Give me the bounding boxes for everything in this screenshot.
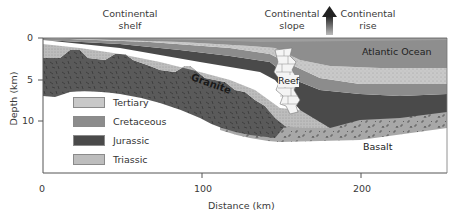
- label-line: Continental: [80, 8, 180, 20]
- legend-swatch: [73, 97, 105, 108]
- x-tick-200: 200: [353, 183, 371, 194]
- legend-label: Tertiary: [113, 97, 149, 108]
- legend-item-jurassic: Jurassic: [73, 134, 149, 146]
- y-tick-0: 0: [27, 32, 33, 43]
- legend-item-triassic: Triassic: [73, 153, 148, 165]
- legend-swatch: [73, 116, 105, 127]
- reef-label: Reef: [278, 75, 299, 87]
- label-line: shelf: [80, 20, 180, 32]
- legend-swatch: [73, 154, 105, 165]
- label-line: Continental: [338, 8, 398, 20]
- y-axis-title: Depth (km): [8, 71, 19, 125]
- basalt-label: Basalt: [363, 141, 392, 153]
- continental-shelf-label: Continental shelf: [80, 8, 180, 32]
- legend-label: Cretaceous: [113, 116, 167, 127]
- label-line: slope: [262, 20, 322, 32]
- x-tick-100: 100: [194, 183, 212, 194]
- legend-label: Jurassic: [113, 135, 149, 146]
- atlantic-ocean-label: Atlantic Ocean: [362, 46, 432, 58]
- cross-section-diagram: [0, 0, 455, 216]
- y-tick-10: 10: [22, 115, 34, 126]
- up-arrow-icon: [322, 6, 337, 35]
- label-line: rise: [338, 20, 398, 32]
- legend-label: Triassic: [113, 154, 148, 165]
- label-line: Continental: [262, 8, 322, 20]
- continental-slope-label: Continental slope: [262, 8, 322, 32]
- y-tick-5: 5: [27, 74, 33, 85]
- continental-rise-label: Continental rise: [338, 8, 398, 32]
- legend-item-cretaceous: Cretaceous: [73, 115, 167, 127]
- x-tick-0: 0: [39, 183, 45, 194]
- legend-item-tertiary: Tertiary: [73, 96, 149, 108]
- legend-swatch: [73, 135, 105, 146]
- x-axis-title: Distance (km): [208, 200, 275, 211]
